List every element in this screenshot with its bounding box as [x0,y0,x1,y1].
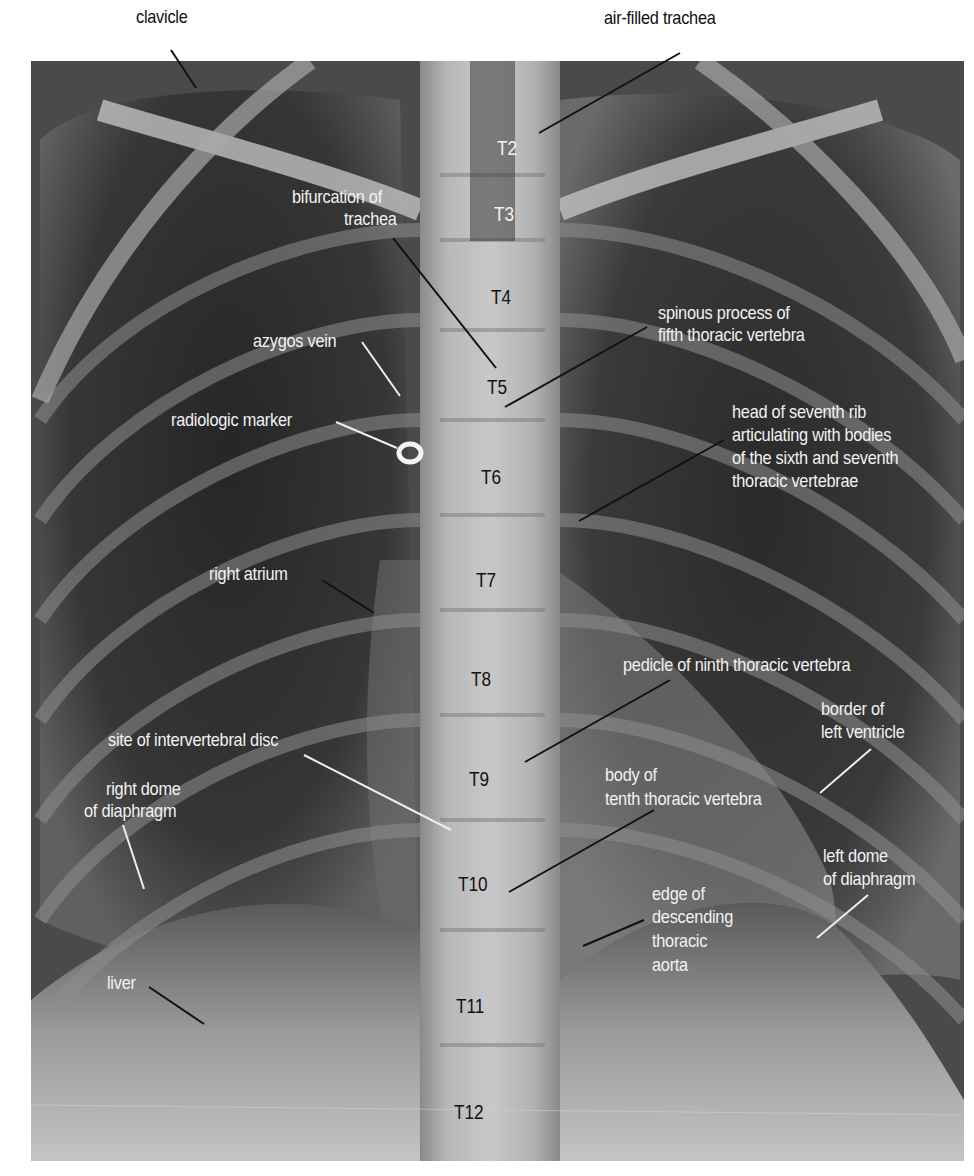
label-right-dome-line1: right dome [106,778,181,800]
vertebra-label-t11: T11 [456,995,484,1017]
vertebra-label-t6: T6 [481,466,501,488]
label-bifurcation-line1: bifurcation of [292,186,382,208]
vertebra-label-t8: T8 [471,668,491,690]
label-right-atrium: right atrium [209,563,288,585]
label-border-lv-line1: border of [821,698,884,720]
label-head-rib-line3: of the sixth and seventh [732,447,898,469]
label-aorta-line1: edge of [652,883,705,905]
vertebra-label-t10: T10 [458,873,488,895]
label-right-dome-line2: of diaphragm [84,800,176,822]
label-air-filled-trachea: air-filled trachea [604,7,716,29]
label-liver: liver [107,972,136,994]
vertebra-label-t7: T7 [476,569,496,591]
vertebra-label-t5: T5 [487,376,507,398]
annotated-chest-xray-figure: clavicle air-filled trachea bifurcation … [0,0,974,1176]
label-aorta-line4: aorta [652,954,688,976]
label-head-rib-line2: articulating with bodies [732,424,891,446]
label-pedicle: pedicle of ninth thoracic vertebra [623,654,850,676]
label-site-of-intervertebral-disc: site of intervertebral disc [108,729,278,751]
label-aorta-line2: descending [652,906,733,928]
label-spinous-line1: spinous process of [658,302,790,324]
vertebra-label-t4: T4 [491,286,511,308]
vertebra-label-t3: T3 [494,203,514,225]
vertebra-label-t2: T2 [497,137,517,159]
label-radiologic-marker: radiologic marker [171,409,292,431]
label-head-rib-line1: head of seventh rib [732,401,866,423]
vertebra-label-t12: T12 [454,1101,484,1123]
label-azygos-vein: azygos vein [253,330,336,352]
label-body-t10-line2: tenth thoracic vertebra [605,788,762,810]
label-aorta-line3: thoracic [652,930,707,952]
label-spinous-line2: fifth thoracic vertebra [658,324,805,346]
label-body-t10-line1: body of [605,764,657,786]
vertebra-label-t9: T9 [469,768,489,790]
label-left-dome-line1: left dome [823,845,888,867]
label-left-dome-line2: of diaphragm [823,868,915,890]
label-bifurcation-line2: trachea [344,208,397,230]
label-head-rib-line4: thoracic vertebrae [732,470,858,492]
label-clavicle: clavicle [136,6,188,28]
label-border-lv-line2: left ventricle [821,721,905,743]
